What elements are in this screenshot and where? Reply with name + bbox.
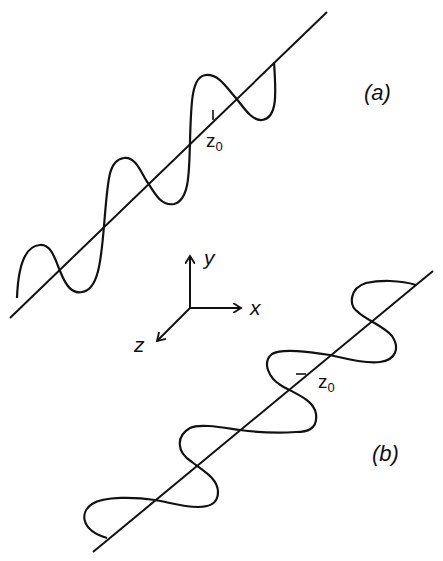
z0-label-b: z0 bbox=[318, 371, 335, 395]
z-axis-arrow bbox=[157, 308, 190, 341]
figure: z0 (a) y x z z0 (b) bbox=[0, 0, 443, 561]
z0-label-a: z0 bbox=[206, 130, 223, 154]
wave-curve-a bbox=[17, 62, 275, 298]
panel-a-label: (a) bbox=[364, 80, 391, 105]
propagation-axis-b bbox=[93, 271, 433, 552]
z-axis-label: z bbox=[133, 333, 145, 356]
panel-b-label: (b) bbox=[372, 441, 399, 466]
y-axis-label: y bbox=[202, 246, 216, 269]
wave-curve-b bbox=[84, 281, 416, 538]
panel-a: z0 (a) bbox=[10, 12, 391, 318]
diagram-canvas: z0 (a) y x z z0 (b) bbox=[0, 0, 443, 561]
x-axis-label: x bbox=[249, 296, 262, 319]
propagation-axis-a bbox=[10, 12, 327, 318]
coordinate-axes: y x z bbox=[133, 246, 262, 356]
